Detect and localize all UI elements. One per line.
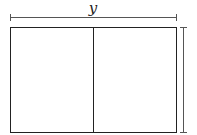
diagram-canvas: y [0, 0, 197, 135]
top-dimension-label: y [88, 0, 98, 17]
right-dimension-arrow [180, 28, 187, 133]
